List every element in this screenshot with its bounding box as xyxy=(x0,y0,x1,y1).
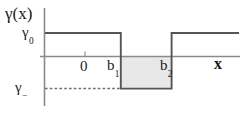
gamma-minus-subscript: − xyxy=(22,91,27,101)
b2-subscript: 2 xyxy=(168,69,173,79)
gamma0-subscript: 0 xyxy=(29,36,34,46)
gamma-profile-figure: γ(x) γ0 γ− 0 b1 b2 x xyxy=(0,0,244,114)
b2-symbol: b xyxy=(160,57,168,73)
b1-symbol: b xyxy=(107,57,115,73)
b1-subscript: 1 xyxy=(115,69,120,79)
gamma-minus-symbol: γ xyxy=(15,79,22,95)
x-tick-label-b2: b2 xyxy=(160,58,172,73)
gamma0-symbol: γ xyxy=(22,24,29,40)
plot-canvas xyxy=(0,0,244,114)
x-tick-label-origin: 0 xyxy=(80,59,88,74)
y-axis-label: γ(x) xyxy=(5,5,32,22)
y-tick-label-gamma0: γ0 xyxy=(22,25,33,40)
y-tick-label-gamma-minus: γ− xyxy=(15,80,27,95)
x-tick-label-b1: b1 xyxy=(107,58,119,73)
x-axis-label: x xyxy=(214,56,222,72)
